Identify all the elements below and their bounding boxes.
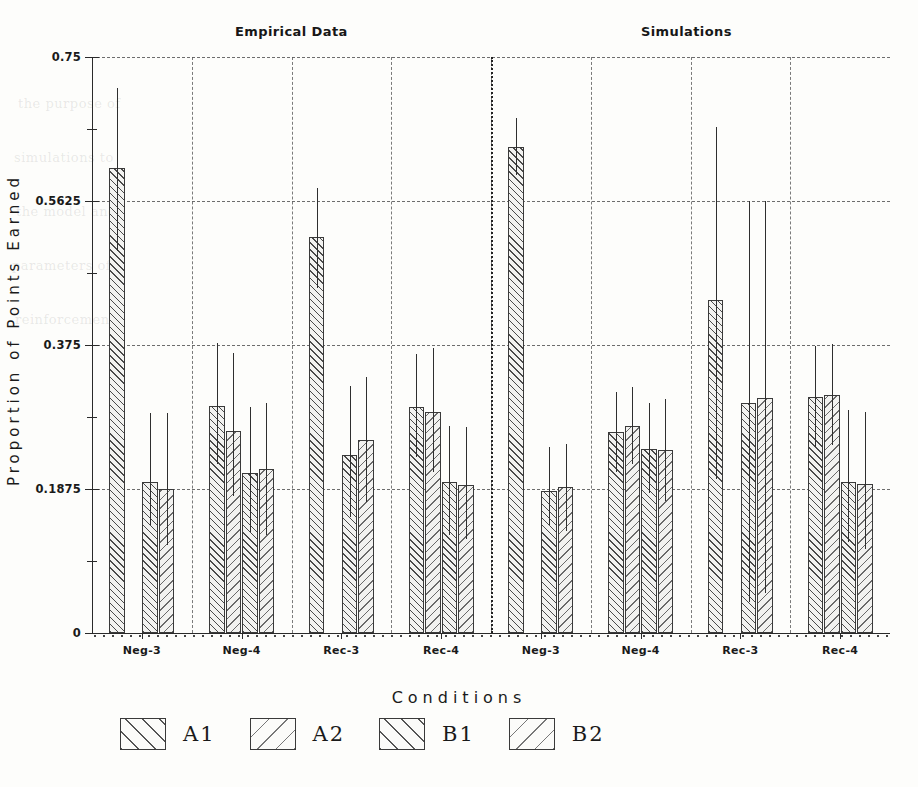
x-axis-minor-mark	[157, 635, 159, 637]
x-tick	[541, 633, 542, 639]
x-axis-minor-mark	[661, 635, 663, 637]
legend-item-b1[interactable]: B1	[379, 718, 475, 750]
x-tick	[641, 633, 642, 639]
y-axis-title: Proportion of Points Earned	[5, 174, 23, 486]
panel-title-empirical: Empirical Data	[235, 24, 348, 39]
x-axis-minor-mark	[454, 635, 456, 637]
legend-item-a2[interactable]: A2	[250, 718, 346, 750]
error-bar	[366, 377, 367, 502]
legend-swatch-b1-icon	[379, 718, 425, 750]
x-axis-minor-mark	[490, 635, 492, 637]
x-axis-minor-mark	[463, 635, 465, 637]
x-axis-minor-mark	[481, 635, 483, 637]
x-axis-minor-mark	[607, 635, 609, 637]
legend-swatch-a1-icon	[120, 718, 166, 750]
x-axis-minor-mark	[742, 635, 744, 637]
x-axis-line	[92, 633, 890, 634]
x-axis-minor-mark	[886, 635, 888, 637]
error-bar	[649, 403, 650, 494]
plot-area: 00.18750.3750.56250.75Neg-3Neg-4Rec-3Rec…	[92, 57, 890, 633]
x-axis-minor-mark	[643, 635, 645, 637]
x-axis-minor-mark	[94, 635, 96, 637]
error-bar	[416, 354, 417, 457]
x-axis-minor-mark	[517, 635, 519, 637]
legend-label: A2	[313, 722, 346, 746]
x-axis-minor-mark	[139, 635, 141, 637]
x-axis-minor-mark	[229, 635, 231, 637]
x-tick-label: Rec-3	[722, 644, 758, 657]
y-tick-major	[85, 633, 99, 634]
x-axis-minor-mark	[400, 635, 402, 637]
legend-swatch-b2-icon	[509, 718, 555, 750]
error-bar	[250, 407, 251, 532]
x-axis-minor-mark	[769, 635, 771, 637]
bar-a1	[508, 147, 524, 633]
x-axis-minor-mark	[121, 635, 123, 637]
x-axis-minor-mark	[733, 635, 735, 637]
x-axis-minor-mark	[148, 635, 150, 637]
x-tick	[341, 633, 342, 639]
x-gridline	[691, 57, 692, 633]
bar-a1	[309, 237, 325, 633]
error-bar	[865, 412, 866, 549]
x-axis-minor-mark	[247, 635, 249, 637]
x-gridline	[391, 57, 392, 633]
y-tick-minor	[87, 273, 97, 274]
x-axis-minor-mark	[166, 635, 168, 637]
x-axis-minor-mark	[499, 635, 501, 637]
x-axis-minor-mark	[445, 635, 447, 637]
error-bar	[350, 386, 351, 517]
x-tick-label: Neg-4	[222, 644, 260, 657]
x-axis-minor-mark	[526, 635, 528, 637]
x-tick	[441, 633, 442, 639]
x-axis-minor-mark	[688, 635, 690, 637]
error-bar	[749, 201, 750, 602]
x-axis-minor-mark	[868, 635, 870, 637]
error-bar	[566, 444, 567, 531]
error-bar	[616, 392, 617, 472]
error-bar	[815, 346, 816, 447]
y-tick-major	[85, 489, 99, 490]
y-tick-major	[85, 345, 99, 346]
x-axis-minor-mark	[877, 635, 879, 637]
x-axis-minor-mark	[256, 635, 258, 637]
legend-item-b2[interactable]: B2	[509, 718, 605, 750]
legend-swatch-a2-icon	[250, 718, 296, 750]
y-tick-label: 0	[73, 626, 81, 640]
x-axis-minor-mark	[760, 635, 762, 637]
error-bar	[832, 344, 833, 445]
x-axis-minor-mark	[364, 635, 366, 637]
x-tick-label: Neg-4	[621, 644, 659, 657]
x-axis-minor-mark	[283, 635, 285, 637]
x-axis-minor-mark	[202, 635, 204, 637]
figure-root: the purpose of simulations to the model …	[0, 0, 918, 787]
x-axis-minor-mark	[418, 635, 420, 637]
y-tick-major	[85, 57, 99, 58]
x-axis-minor-mark	[427, 635, 429, 637]
x-axis-minor-mark	[724, 635, 726, 637]
panel-title-simulations: Simulations	[641, 24, 732, 39]
x-axis-minor-mark	[814, 635, 816, 637]
x-axis-minor-mark	[310, 635, 312, 637]
error-bar	[117, 88, 118, 252]
x-axis-minor-mark	[544, 635, 546, 637]
x-axis-minor-mark	[598, 635, 600, 637]
x-axis-minor-mark	[211, 635, 213, 637]
legend-item-a1[interactable]: A1	[120, 718, 216, 750]
x-axis-minor-mark	[175, 635, 177, 637]
x-axis-minor-mark	[706, 635, 708, 637]
x-axis-minor-mark	[355, 635, 357, 637]
error-bar	[765, 201, 766, 593]
x-axis-minor-mark	[238, 635, 240, 637]
error-bar	[217, 343, 218, 464]
y-tick-label: 0.75	[52, 50, 81, 64]
x-axis-minor-mark	[805, 635, 807, 637]
x-axis-minor-mark	[373, 635, 375, 637]
x-axis-minor-mark	[796, 635, 798, 637]
x-tick-label: Rec-4	[822, 644, 858, 657]
x-gridline	[790, 57, 791, 633]
x-tick-label: Neg-3	[123, 644, 161, 657]
x-tick-label: Rec-3	[323, 644, 359, 657]
x-axis-minor-mark	[130, 635, 132, 637]
error-bar	[233, 353, 234, 495]
